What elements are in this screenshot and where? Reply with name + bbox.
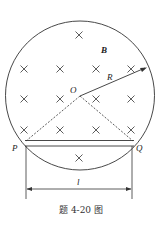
radius-label: R xyxy=(106,72,113,82)
center-label: O xyxy=(70,85,77,95)
field-label: B xyxy=(100,45,107,55)
radius-arrowhead xyxy=(140,68,147,73)
figure-caption: 题 4-20 图 xyxy=(0,203,162,216)
length-label: l xyxy=(77,177,80,187)
point-p-label: P xyxy=(11,143,18,153)
field-into-page-markers xyxy=(21,32,135,162)
radius-arrow xyxy=(80,68,145,96)
dashed-line-o-to-p xyxy=(26,96,80,141)
dimension-arrowhead-right xyxy=(126,187,132,191)
point-q-label: Q xyxy=(136,143,143,153)
dimension-arrowhead-left xyxy=(27,187,33,191)
magnetic-field-diagram: B R O P Q l xyxy=(0,0,162,233)
dashed-line-o-to-q xyxy=(80,96,133,141)
